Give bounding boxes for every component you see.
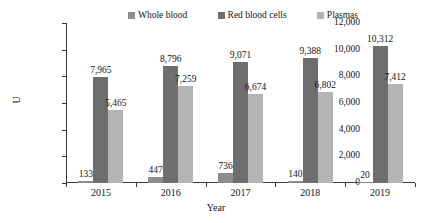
bar xyxy=(233,62,248,183)
bar-value-label: 7,412 xyxy=(375,73,415,83)
bar xyxy=(148,177,163,183)
x-axis-tick xyxy=(275,183,276,187)
bar xyxy=(388,84,403,183)
plot-area: 1337,9655,4654478,7967,2597369,0716,6741… xyxy=(66,23,415,183)
bar-value-label: 9,071 xyxy=(221,51,261,61)
x-axis-tick-label: 2015 xyxy=(71,188,131,198)
bar xyxy=(288,181,303,183)
x-axis-tick xyxy=(206,183,207,187)
x-axis-tick-label: 2019 xyxy=(350,188,410,198)
legend-label: Whole blood xyxy=(138,11,187,21)
legend-label: Red blood cells xyxy=(228,11,287,21)
bar-value-label: 8,796 xyxy=(151,55,191,65)
bar xyxy=(218,173,233,183)
x-axis-tick xyxy=(136,183,137,187)
x-axis-tick-label: 2017 xyxy=(211,188,271,198)
bar-value-label: 6,802 xyxy=(305,81,345,91)
legend-item-whole-blood: Whole blood xyxy=(128,11,187,21)
bar-value-label: 9,388 xyxy=(290,47,330,57)
x-axis-tick-label: 2018 xyxy=(280,188,340,198)
bar xyxy=(373,46,388,183)
bar-value-label: 6,674 xyxy=(236,83,276,93)
bar xyxy=(248,94,263,183)
bar xyxy=(178,86,193,183)
bar-value-label: 7,259 xyxy=(166,75,206,85)
chart-legend: Whole blood Red blood cells Plasmas xyxy=(128,8,358,23)
bar xyxy=(78,181,93,183)
bar xyxy=(303,58,318,183)
x-axis-tick-label: 2016 xyxy=(141,188,201,198)
x-axis-tick xyxy=(345,183,346,187)
bar xyxy=(108,110,123,183)
bar xyxy=(318,92,333,183)
legend-swatch-icon xyxy=(128,12,135,19)
legend-swatch-icon xyxy=(218,12,225,19)
bar-value-label: 10,312 xyxy=(360,35,400,45)
x-axis-title: Year xyxy=(0,203,432,213)
x-axis-tick xyxy=(66,183,67,187)
y-axis-title: U xyxy=(12,96,22,103)
bar xyxy=(93,77,108,183)
bar-value-label: 7,965 xyxy=(81,66,121,76)
x-axis-tick xyxy=(415,183,416,187)
legend-item-red-blood-cells: Red blood cells xyxy=(218,11,287,21)
bar xyxy=(358,182,373,183)
bar-value-label: 5,465 xyxy=(96,99,136,109)
legend-swatch-icon xyxy=(317,12,324,19)
bar-chart: Whole blood Red blood cells Plasmas 12,0… xyxy=(0,0,432,223)
